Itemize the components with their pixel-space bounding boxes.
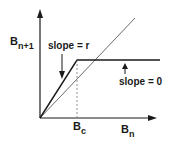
- x-axis-label: Bn: [121, 124, 134, 135]
- y-axis-arrowhead-icon: [37, 9, 43, 18]
- threshold-label-sub: c: [81, 126, 86, 136]
- y-axis-label: Bn+1: [10, 36, 34, 47]
- threshold-label-base: B: [73, 120, 81, 132]
- reference-line-45deg: [40, 18, 135, 118]
- y-axis-label-base: B: [10, 35, 18, 47]
- slope-r-arrowhead-icon: [59, 71, 65, 79]
- slope-r-label: slope = r: [48, 41, 89, 51]
- slope-0-arrowhead-icon: [122, 63, 128, 69]
- x-axis-arrowhead-icon: [148, 115, 157, 121]
- threshold-label: Bc: [73, 121, 86, 132]
- x-axis-label-sub: n: [129, 129, 135, 139]
- piecewise-line: [40, 60, 160, 118]
- piecewise-function-diagram: [0, 0, 177, 147]
- slope-0-label: slope = 0: [119, 77, 162, 87]
- x-axis-label-base: B: [121, 123, 129, 135]
- y-axis-label-sub: n+1: [18, 41, 34, 51]
